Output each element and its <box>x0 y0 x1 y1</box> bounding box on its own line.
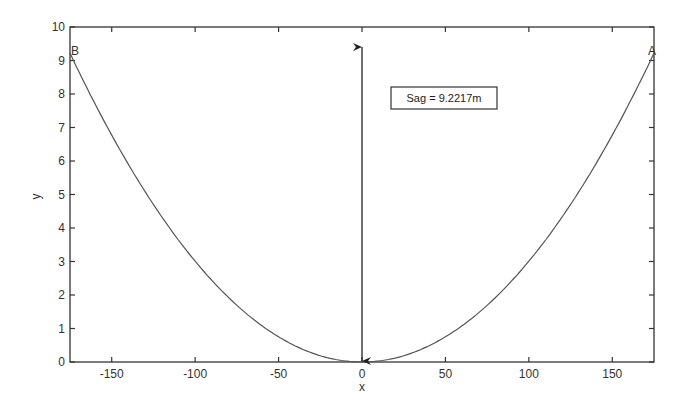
y-tick-label: 8 <box>58 87 65 101</box>
y-axis-ticks: 012345678910 <box>52 20 654 369</box>
x-tick-label: 0 <box>359 367 366 381</box>
x-tick-label: -100 <box>183 367 207 381</box>
x-tick-label: 50 <box>439 367 453 381</box>
point-label-a: A <box>648 44 656 58</box>
y-tick-label: 3 <box>58 255 65 269</box>
x-tick-label: 100 <box>519 367 539 381</box>
y-tick-label: 6 <box>58 154 65 168</box>
x-axis-ticks: -150-100-50050100150 <box>100 27 623 381</box>
y-tick-label: 5 <box>58 188 65 202</box>
point-label-b: B <box>71 44 79 58</box>
x-axis-label: x <box>359 380 365 394</box>
y-tick-label: 0 <box>58 355 65 369</box>
y-tick-label: 7 <box>58 121 65 135</box>
sag-value-label: Sag = 9.2217m <box>407 92 482 104</box>
sag-annotation-box: Sag = 9.2217m <box>391 87 497 109</box>
y-tick-label: 1 <box>58 322 65 336</box>
y-tick-label: 4 <box>58 221 65 235</box>
x-tick-label: -150 <box>100 367 124 381</box>
sag-chart: 012345678910 -150-100-50050100150 Sag = … <box>0 0 690 408</box>
point-labels: BA <box>71 44 656 58</box>
y-tick-label: 10 <box>52 20 66 34</box>
x-tick-label: 150 <box>602 367 622 381</box>
x-tick-label: -50 <box>270 367 288 381</box>
y-tick-label: 9 <box>58 54 65 68</box>
y-axis-label: y <box>29 194 43 200</box>
y-tick-label: 2 <box>58 288 65 302</box>
